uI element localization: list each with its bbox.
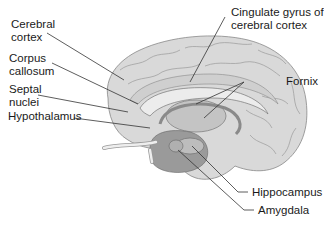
label-line: Amygdala	[258, 204, 309, 217]
label-corpus-callosum: Corpus callosum	[9, 52, 54, 78]
label-cerebral-cortex: Cerebral cortex	[11, 18, 55, 44]
label-amygdala: Amygdala	[258, 204, 309, 217]
amygdala	[169, 140, 183, 152]
label-line: Cerebral	[11, 18, 55, 31]
label-line: callosum	[9, 65, 54, 78]
label-fornix: Fornix	[286, 75, 318, 88]
label-hippocampus: Hippocampus	[252, 186, 322, 199]
label-cingulate-gyrus: Cingulate gyrus of cerebral cortex	[231, 6, 324, 32]
label-line: Cingulate gyrus of	[231, 6, 324, 19]
label-line: Hippocampus	[252, 186, 322, 199]
label-line: nuclei	[9, 96, 42, 109]
label-line: Fornix	[286, 75, 318, 88]
label-line: Septal	[9, 83, 42, 96]
label-septal-nuclei: Septal nuclei	[9, 83, 42, 109]
label-hypothalamus: Hypothalamus	[8, 110, 82, 123]
label-line: cerebral cortex	[231, 19, 324, 32]
label-line: Hypothalamus	[8, 110, 82, 123]
brain-diagram: Cerebral cortex Corpus callosum Septal n…	[0, 0, 324, 226]
label-line: cortex	[11, 31, 55, 44]
label-line: Corpus	[9, 52, 54, 65]
